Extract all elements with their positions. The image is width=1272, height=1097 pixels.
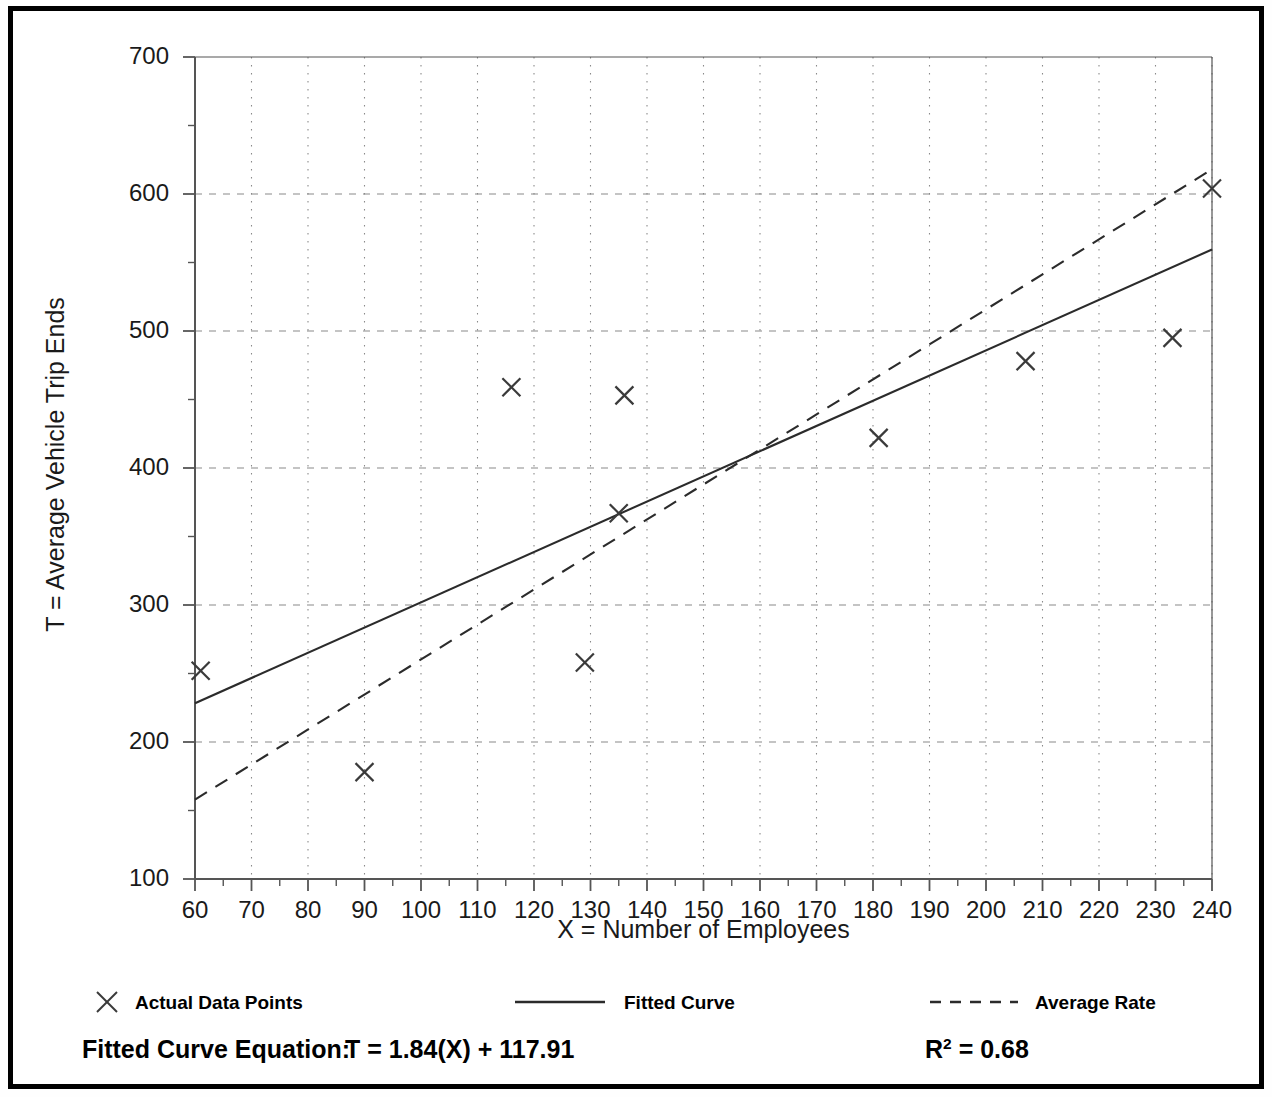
x-tick-label: 160 [730, 896, 790, 924]
x-tick-label: 100 [391, 896, 451, 924]
x-tick-label: 180 [843, 896, 903, 924]
x-tick-label: 80 [278, 896, 338, 924]
data-point-marker [502, 378, 520, 396]
x-tick-label: 70 [222, 896, 282, 924]
x-tick-label: 130 [561, 896, 621, 924]
chart-figure: T = Average Vehicle Trip Ends X = Number… [0, 0, 1272, 1097]
x-tick-label: 110 [448, 896, 508, 924]
r-squared-annotation: R2 = 0.68 [925, 1035, 1029, 1064]
y-axis-label: T = Average Vehicle Trip Ends [41, 195, 70, 735]
axis-ticks [183, 57, 1212, 891]
data-point-marker [1017, 352, 1035, 370]
y-tick-label: 300 [99, 590, 169, 618]
x-tick-label: 140 [617, 896, 677, 924]
x-tick-label: 90 [335, 896, 395, 924]
x-tick-label: 210 [1013, 896, 1073, 924]
legend-label-average-rate: Average Rate [1035, 992, 1156, 1014]
y-tick-label: 400 [99, 453, 169, 481]
legend-x-marker-icon [97, 992, 117, 1012]
x-tick-label: 230 [1126, 896, 1186, 924]
r-squared-value: = 0.68 [959, 1035, 1029, 1063]
data-point-marker [576, 654, 594, 672]
x-tick-label: 240 [1182, 896, 1242, 924]
data-point-markers [192, 180, 1221, 782]
y-tick-label: 500 [99, 316, 169, 344]
x-tick-label: 150 [674, 896, 734, 924]
data-point-marker [870, 429, 888, 447]
legend-label-fitted-curve: Fitted Curve [624, 992, 735, 1014]
y-tick-label: 600 [99, 179, 169, 207]
y-tick-label: 700 [99, 42, 169, 70]
x-tick-label: 120 [504, 896, 564, 924]
legend-label-actual-data-points: Actual Data Points [135, 992, 303, 1014]
x-tick-label: 190 [900, 896, 960, 924]
y-tick-label: 200 [99, 727, 169, 755]
data-point-marker [610, 504, 628, 522]
r-squared-symbol: R [925, 1035, 943, 1063]
x-tick-label: 60 [165, 896, 225, 924]
x-tick-label: 170 [787, 896, 847, 924]
equation-label: Fitted Curve Equation: [82, 1035, 350, 1064]
data-point-marker [615, 386, 633, 404]
x-tick-label: 200 [956, 896, 1016, 924]
equation-value: T = 1.84(X) + 117.91 [345, 1035, 574, 1064]
r-squared-exponent: 2 [943, 1035, 952, 1052]
y-tick-label: 100 [99, 864, 169, 892]
gridlines [195, 57, 1212, 879]
data-point-marker [1163, 329, 1181, 347]
x-tick-label: 220 [1069, 896, 1129, 924]
